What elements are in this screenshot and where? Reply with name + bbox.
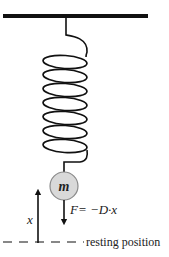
spring-coil bbox=[43, 68, 88, 84]
mass-label: m bbox=[59, 179, 70, 194]
spring-diagram: m F= −D·x x resting position bbox=[0, 0, 169, 257]
force-label: F= −D·x bbox=[69, 202, 117, 217]
spring-coils bbox=[43, 54, 88, 154]
spring-coil bbox=[43, 124, 88, 140]
mass: m bbox=[50, 172, 78, 200]
spring-top-hook bbox=[66, 16, 87, 57]
spring-coil bbox=[43, 54, 88, 70]
resting-position-label: resting position bbox=[86, 235, 160, 249]
spring-coil bbox=[43, 96, 88, 112]
spring-coil bbox=[43, 110, 88, 126]
displacement-label: x bbox=[26, 212, 33, 227]
spring-coil bbox=[43, 138, 88, 154]
spring-coil bbox=[43, 82, 88, 98]
